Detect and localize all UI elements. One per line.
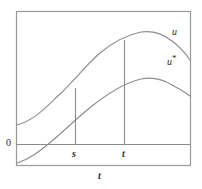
plot-frame [17,12,191,166]
curve-label-u-star-superscript: * [172,53,177,63]
curve-label-u: u [172,27,177,37]
origin-label: 0 [6,138,11,148]
x-tick-label-s: s [72,149,76,159]
figure-container: u u* 0 s t t [0,0,202,189]
x-tick-label-t: t [122,149,125,159]
x-axis-label: t [98,171,101,181]
curve-label-u-star: u* [167,57,177,67]
